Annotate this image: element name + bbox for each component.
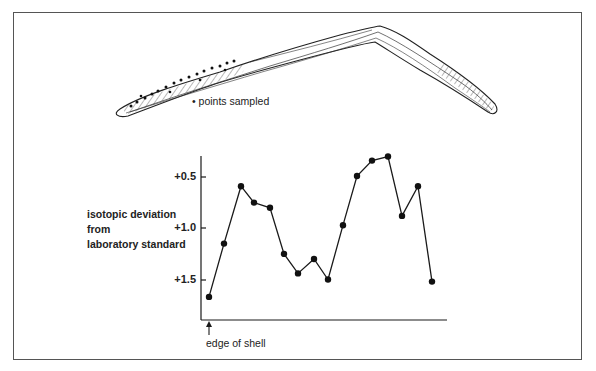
data-point xyxy=(429,278,435,284)
data-point xyxy=(415,183,421,189)
data-point xyxy=(295,270,301,276)
data-point xyxy=(281,251,287,257)
data-point xyxy=(206,294,212,300)
legend-points-sampled: • points sampled xyxy=(192,95,269,107)
data-point xyxy=(385,153,391,159)
figure-graphics xyxy=(0,0,596,371)
chart-axes xyxy=(201,156,447,320)
arrow-up-icon xyxy=(206,321,212,335)
y-tick-1.5: +1.5 xyxy=(160,273,196,285)
y-tick-0.5: +0.5 xyxy=(160,170,196,182)
data-point xyxy=(369,157,375,163)
data-point xyxy=(340,222,346,228)
y-tick-1.0: +1.0 xyxy=(160,221,196,233)
data-point xyxy=(325,276,331,282)
data-point xyxy=(251,199,257,205)
data-point xyxy=(354,173,360,179)
data-point xyxy=(399,213,405,219)
data-point xyxy=(238,183,244,189)
shell-drawing xyxy=(116,26,497,117)
data-point xyxy=(221,240,227,246)
edge-of-shell-annotation: edge of shell xyxy=(206,337,266,349)
data-point xyxy=(311,256,317,262)
data-point xyxy=(267,205,273,211)
data-series xyxy=(206,153,435,300)
